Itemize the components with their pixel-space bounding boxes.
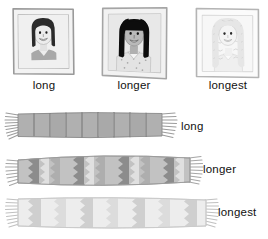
picture-frame-longest <box>192 4 264 88</box>
scarf-fringe-left <box>6 160 20 186</box>
scarf-label-longer: longer <box>203 163 236 175</box>
scarf-fringe-right <box>189 157 203 185</box>
scarf-row-long: long <box>0 106 268 148</box>
portrait-svg-longest <box>192 4 264 84</box>
portrait-caption-longer: longer <box>92 79 176 91</box>
illustration-canvas: long <box>0 0 268 239</box>
scarf-label-longest: longest <box>218 206 256 218</box>
portrait-row: long <box>0 0 268 100</box>
scarf-row-longer: longer <box>0 149 268 191</box>
picture-frame-long <box>9 4 79 84</box>
scarf-svg-longest <box>4 192 220 237</box>
picture-frame-longer <box>97 4 171 88</box>
portrait-svg-long <box>9 4 79 80</box>
scarf-fringe-right <box>205 199 219 227</box>
portrait-card-long: long <box>2 0 86 100</box>
scarf-svg-long <box>4 106 184 148</box>
scarf-fringe-left <box>5 113 18 139</box>
portrait-caption-long: long <box>2 79 86 91</box>
scarf-fringe-right <box>162 113 177 138</box>
portrait-card-longest: longest <box>186 0 268 100</box>
scarf-label-long: long <box>181 120 204 132</box>
scarf-fringe-left <box>6 199 20 227</box>
portrait-card-longer: longer <box>92 0 176 100</box>
portrait-svg-longer <box>97 4 171 84</box>
scarf-svg-longer <box>4 149 204 191</box>
portrait-caption-longest: longest <box>186 79 268 91</box>
scarf-row-longest: longest <box>0 192 268 234</box>
